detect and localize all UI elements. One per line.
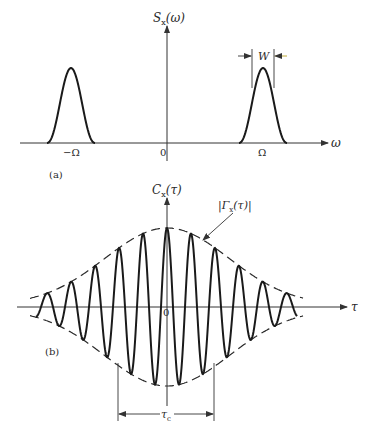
spectrum-axis-label: Sx(ω) — [153, 11, 185, 27]
tau-axis-label: τ — [351, 300, 358, 314]
envelope-annotation: |Γx(τ)| — [203, 199, 252, 240]
figure: Sx(ω) ω 0 −Ω Ω (a) W Cx(τ) τ 0 (b) |Γx(τ… — [0, 0, 373, 436]
panel-b-label: (b) — [45, 346, 59, 357]
pos-omega-tick-label: Ω — [258, 147, 266, 158]
positive-frequency-peak — [239, 68, 287, 143]
bandwidth-label: W — [258, 50, 271, 63]
neg-omega-tick-label: −Ω — [63, 147, 80, 158]
covariance-axis-label: Cx(τ) — [152, 183, 182, 199]
coherence-time-label: τc — [161, 408, 171, 423]
origin-label-b: 0 — [163, 307, 169, 318]
panel-b-autocovariance: Cx(τ) τ 0 (b) |Γx(τ)| τc — [17, 183, 358, 423]
envelope-label: |Γx(τ)| — [218, 199, 252, 214]
origin-label-a: 0 — [160, 147, 166, 158]
omega-axis-label: ω — [331, 136, 341, 150]
panel-a-spectrum: Sx(ω) ω 0 −Ω Ω (a) W — [20, 11, 341, 180]
panel-a-label: (a) — [49, 169, 63, 180]
negative-frequency-peak — [47, 68, 95, 143]
